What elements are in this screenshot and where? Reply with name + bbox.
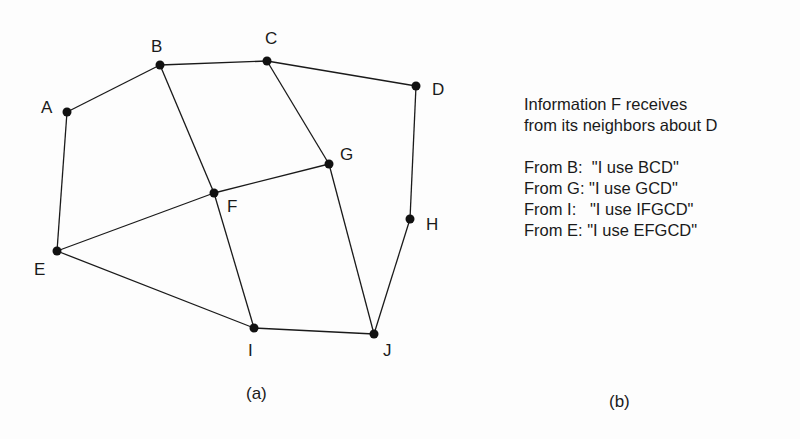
edge-G-J	[329, 164, 374, 334]
info-title: Information F receives from its neighbor…	[524, 94, 718, 136]
node-label-I: I	[248, 341, 253, 360]
node-label-J: J	[383, 341, 392, 360]
node-A	[63, 108, 72, 117]
edge-I-J	[254, 328, 374, 334]
node-label-A: A	[41, 98, 53, 117]
info-title-line-2: from its neighbors about D	[524, 115, 718, 136]
info-line-from-g: From G: "I use GCD"	[524, 178, 718, 199]
node-label-C: C	[265, 29, 277, 48]
edge-D-H	[410, 86, 416, 219]
node-label-D: D	[432, 80, 444, 99]
node-D	[412, 82, 421, 91]
node-E	[53, 247, 62, 256]
edge-B-F	[160, 65, 214, 193]
node-J	[370, 330, 379, 339]
node-label-F: F	[227, 197, 237, 216]
node-label-E: E	[34, 260, 45, 279]
edge-H-J	[374, 219, 410, 334]
node-F	[210, 189, 219, 198]
info-title-line-1: Information F receives	[524, 94, 718, 115]
caption-b: (b)	[609, 392, 630, 412]
edge-A-E	[57, 112, 67, 251]
edge-C-D	[267, 61, 416, 86]
info-line-from-e: From E: "I use EFGCD"	[524, 220, 718, 241]
node-label-H: H	[426, 215, 438, 234]
node-I	[250, 324, 259, 333]
edge-C-G	[267, 61, 329, 164]
node-H	[406, 215, 415, 224]
edge-E-I	[57, 251, 254, 328]
node-B	[156, 61, 165, 70]
edge-E-F	[57, 193, 214, 251]
edge-A-B	[67, 65, 160, 112]
node-label-G: G	[340, 145, 353, 164]
edge-B-C	[160, 61, 267, 65]
caption-a: (a)	[246, 384, 267, 404]
node-G	[325, 160, 334, 169]
node-C	[263, 57, 272, 66]
info-line-from-i: From I: "I use IFGCD"	[524, 199, 718, 220]
graph-node-labels: ABCDEFGHIJ	[34, 29, 444, 360]
info-line-from-b: From B: "I use BCD"	[524, 157, 718, 178]
node-label-B: B	[151, 37, 162, 56]
info-panel: Information F receives from its neighbor…	[524, 94, 718, 241]
edge-F-G	[214, 164, 329, 193]
